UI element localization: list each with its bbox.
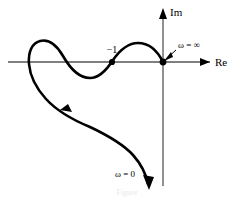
critical-point-label: −1 [107,44,118,55]
omega-infinity-label: ω = ∞ [178,40,200,50]
real-axis-label: Re [215,56,227,68]
omega-zero-label: ω = 0 [115,169,135,179]
critical-point-dot [109,59,115,65]
real-axis-arrowhead [200,58,210,66]
imaginary-axis-arrowhead [159,8,167,19]
figure-caption: Figure [92,188,162,197]
nyquist-figure: Re Im −1 ω = ∞ ω = 0 Figure [0,0,251,200]
imaginary-axis-label: Im [170,6,183,18]
nyquist-plot: Re Im −1 ω = ∞ ω = 0 [0,0,251,200]
